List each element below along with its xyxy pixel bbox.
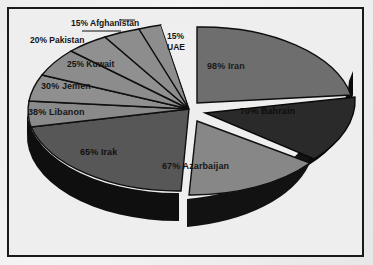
- slice-label-uae-line2: UAE: [167, 42, 185, 53]
- slice-label-kuwait: 25% Kuwait: [67, 59, 114, 69]
- slice-label-azarbaijan: 67% Azarbaijan: [162, 161, 229, 171]
- chart-plot-area: 98% Iran 70% Bahrain 67% Azarbaijan 65% …: [9, 9, 362, 255]
- slice-label-uae-line1: 15%: [167, 31, 185, 42]
- slice-label-jemen: 30% Jemen: [41, 81, 91, 91]
- slice-label-afghanistan: 15% Afghanistan: [71, 18, 139, 28]
- screenshot-root: 98% Iran 70% Bahrain 67% Azarbaijan 65% …: [0, 0, 373, 265]
- slice-label-irak: 65% Irak: [80, 147, 117, 157]
- slice-label-pakistan: 20% Pakistan: [30, 35, 84, 45]
- slice-label-iran: 98% Iran: [207, 61, 245, 71]
- pie-chart-graphic: [9, 9, 362, 255]
- slice-label-bahrain: 70% Bahrain: [240, 106, 295, 116]
- slice-label-libanon: 38% Libanon: [28, 107, 85, 117]
- slice-label-uae: 15% UAE: [167, 31, 185, 52]
